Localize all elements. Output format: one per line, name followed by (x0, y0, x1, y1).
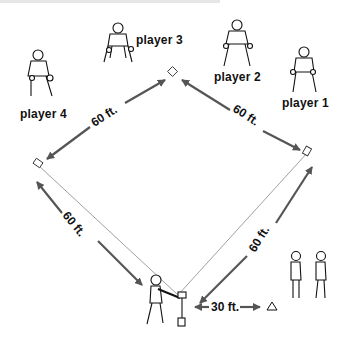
batter-icon (147, 275, 180, 324)
cone-icon (267, 302, 277, 310)
player-3-figure (104, 23, 134, 62)
field-diagram (0, 0, 345, 340)
player-2-label: player 2 (214, 70, 261, 84)
tee-icon (178, 292, 186, 326)
player-1-figure (291, 47, 317, 92)
second-base (168, 67, 178, 77)
first-base (302, 146, 311, 156)
third-base (33, 158, 43, 168)
player-2-figure (224, 20, 253, 66)
player-1-label: player 1 (282, 96, 329, 110)
player-3-label: player 3 (136, 33, 183, 47)
player-4-label: player 4 (20, 107, 67, 121)
player-4-figure (28, 50, 53, 96)
distance-label-tee-to-cone: 30 ft. (211, 300, 239, 314)
waiting-batter-icon (291, 252, 326, 299)
